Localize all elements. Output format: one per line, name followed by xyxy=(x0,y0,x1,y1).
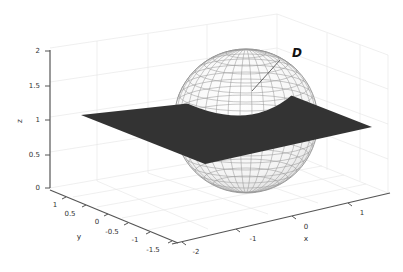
z-tick-label: 0.5 xyxy=(29,151,40,159)
annotation-label: D xyxy=(292,46,302,60)
y-tick-label: -0.5 xyxy=(105,228,119,236)
y-tick-label: -1 xyxy=(132,236,139,244)
y-tick-label: 1 xyxy=(53,201,57,209)
figure: D 2 1.5 1 0.5 0 z 1 0.5 0 -0.5 -1 -1.5 y xyxy=(0,0,403,272)
x-tick-label: -1 xyxy=(250,235,257,243)
x-axis-label: x xyxy=(304,234,309,243)
z-axis-label: z xyxy=(15,119,24,123)
y-axis: 1 0.5 0 -0.5 -1 -1.5 y xyxy=(50,190,178,254)
z-tick-label: 1 xyxy=(36,116,40,124)
y-tick-label: 0 xyxy=(95,218,99,226)
x-tick-label: 0 xyxy=(304,223,308,231)
x-axis: -2 -1 0 1 x xyxy=(172,193,390,256)
plot-3d: D 2 1.5 1 0.5 0 z 1 0.5 0 -0.5 -1 -1.5 y xyxy=(0,0,403,272)
z-tick-label: 2 xyxy=(36,47,40,55)
x-tick-label: 1 xyxy=(360,209,364,217)
y-tick-label: 0.5 xyxy=(64,210,75,218)
y-tick-label: -1.5 xyxy=(146,246,160,254)
z-tick-label: 1.5 xyxy=(29,82,40,90)
z-tick-label: 0 xyxy=(36,184,40,192)
z-axis: 2 1.5 1 0.5 0 z xyxy=(15,47,50,192)
x-tick-label: -2 xyxy=(193,248,200,256)
y-axis-label: y xyxy=(77,232,82,241)
